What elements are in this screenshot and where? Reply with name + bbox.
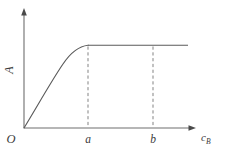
figure-root: O A a b cB: [0, 0, 225, 151]
x-axis-label-subscript: B: [206, 137, 211, 146]
y-axis-arrow-icon: [21, 8, 27, 16]
tick-label-a: a: [85, 133, 91, 145]
saturation-curve-rising: [24, 45, 88, 128]
y-axis-label: A: [2, 66, 16, 75]
x-axis-label: cB: [201, 131, 211, 146]
origin-label: O: [6, 132, 15, 146]
tick-label-b: b: [150, 133, 156, 145]
x-axis-arrow-icon: [189, 125, 197, 130]
saturation-curve-plot: O A a b cB: [0, 0, 225, 151]
